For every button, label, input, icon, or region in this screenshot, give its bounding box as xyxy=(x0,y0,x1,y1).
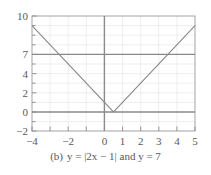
caption-panel-label: (b) xyxy=(50,150,63,162)
caption-equation-1: y = |2x − 1| xyxy=(67,150,117,162)
y-tick-label-7: 7 xyxy=(23,48,29,60)
caption-equation-2: y = 7 xyxy=(138,150,161,162)
x-tick-label-minus-4: −4 xyxy=(26,135,38,147)
y-tick-label-4: 4 xyxy=(23,68,29,80)
x-tick-label-5: 5 xyxy=(192,135,198,147)
x-tick-label-4: 4 xyxy=(174,135,180,147)
y-tick-label-10: 10 xyxy=(17,10,29,22)
y-tick-label-0: 0 xyxy=(23,106,29,118)
x-tick-label-3: 3 xyxy=(156,135,162,147)
x-tick-label-minus-2: −2 xyxy=(62,135,74,147)
y-tick-label-2: 2 xyxy=(23,87,29,99)
x-tick-label-0: 0 xyxy=(102,135,108,147)
plot-area: 10 7 4 2 0 −2 −4 −2 0 1 2 3 4 5 xyxy=(0,0,211,150)
figure-panel-b: 10 7 4 2 0 −2 −4 −2 0 1 2 3 4 5 (b)y = |… xyxy=(0,0,211,175)
figure-caption: (b)y = |2x − 1| and y = 7 xyxy=(0,150,211,162)
x-tick-label-1: 1 xyxy=(120,135,126,147)
x-tick-label-2: 2 xyxy=(138,135,144,147)
coordinate-plot: 10 7 4 2 0 −2 −4 −2 0 1 2 3 4 5 xyxy=(0,0,211,150)
caption-conjunction: and xyxy=(120,150,136,162)
